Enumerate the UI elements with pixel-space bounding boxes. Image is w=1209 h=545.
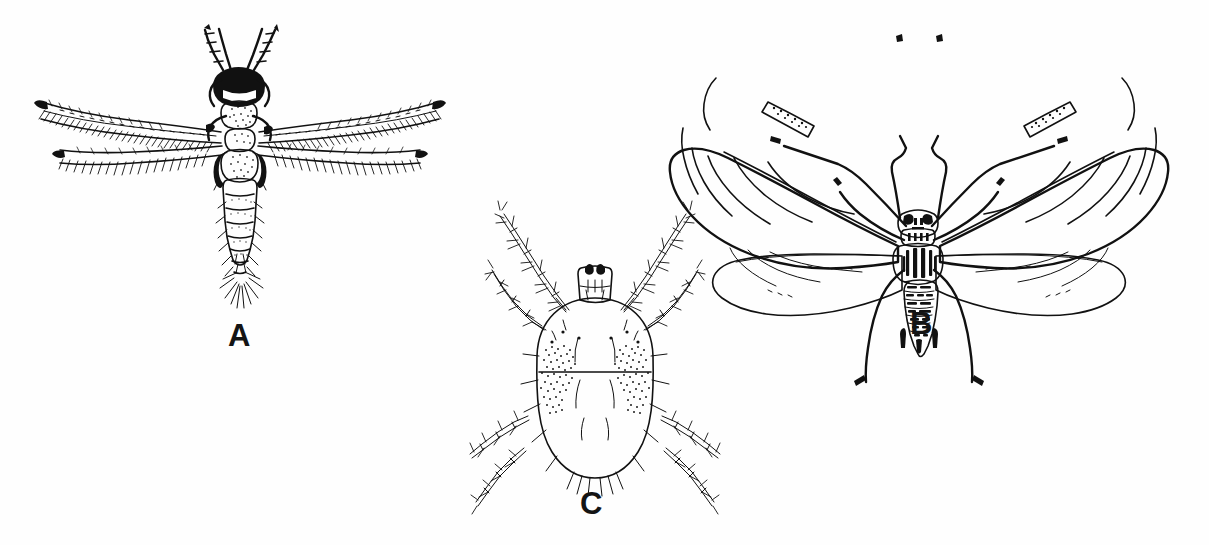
mite-gnathosoma: [578, 264, 612, 303]
mite-leg-left-1: [495, 201, 569, 312]
thrips-right-hindwing: [258, 144, 428, 175]
thrips-abdomen: [216, 179, 264, 309]
thrips-left-forewing: [34, 100, 221, 152]
thrips-antennae: [204, 24, 279, 70]
panel-b-aphid: B: [648, 18, 1188, 318]
panel-label-c: C: [580, 488, 602, 519]
aphid-mid-legs: [833, 177, 1005, 240]
mite-dorsal-setae: [552, 320, 638, 440]
panel-label-a: A: [228, 320, 250, 351]
aphid-right-forewing: [940, 78, 1168, 268]
panel-a-thrips: A: [18, 10, 448, 320]
aphid-antennae: [892, 34, 947, 218]
thrips-drawing: [34, 24, 446, 308]
thrips-right-forewing: [259, 100, 446, 152]
thrips-metathorax: [221, 150, 258, 183]
panel-label-b: B: [910, 308, 932, 339]
mite-left-blotch: [540, 345, 576, 414]
thrips-mesothorax: [225, 129, 255, 152]
panel-c-spider-mite: C: [470, 180, 720, 530]
thrips-left-hindwing: [52, 144, 222, 175]
spider-mite-drawing: [470, 201, 720, 514]
mite-leg-right-4: [664, 448, 719, 514]
aphid-fore-legs: [770, 136, 1068, 226]
thrips-wings: [34, 100, 446, 175]
figure-plate: A: [0, 0, 1209, 545]
mite-right-blotch: [614, 345, 650, 414]
mite-idiosoma: [521, 290, 669, 496]
mite-leg-left-4: [471, 448, 526, 514]
mite-leg-right-1: [621, 201, 695, 312]
aphid-left-hindwing: [713, 248, 902, 316]
aphid-right-hindwing: [936, 248, 1125, 316]
